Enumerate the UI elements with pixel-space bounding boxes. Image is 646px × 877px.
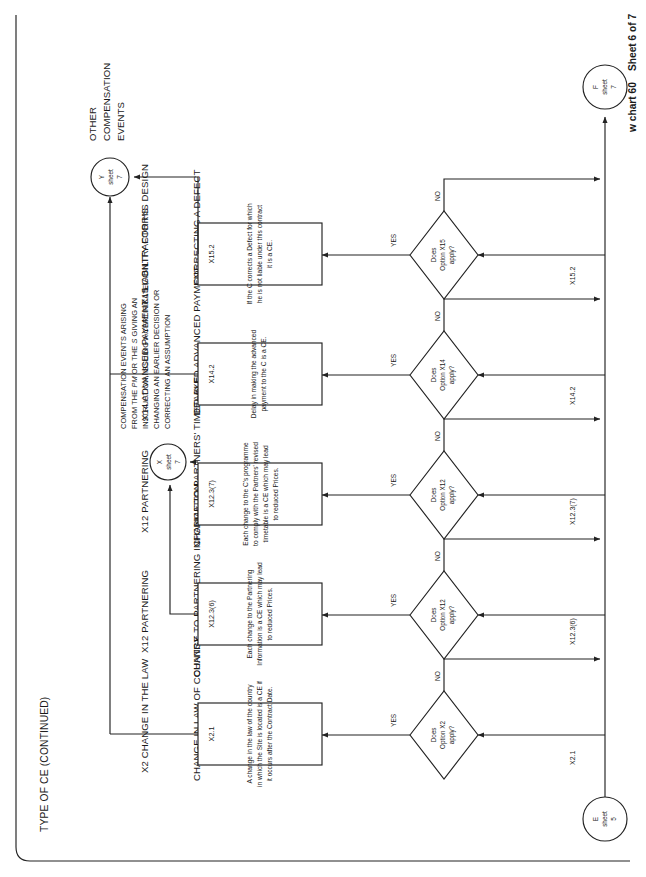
- branch-x12b-option-heading: X12 PARTNERING: [139, 450, 150, 533]
- sheet-border: [16, 15, 630, 861]
- annotation-l2b: PM: [130, 376, 139, 388]
- annotation-l2d: S: [130, 339, 139, 344]
- branch-x2-decision-l2: Option X2: [439, 721, 447, 750]
- branch-x2-yes-label: YES: [390, 713, 397, 727]
- entry-connector: E sheet 5: [583, 797, 627, 841]
- branch-x12b-box-line-4: to reduced Prices.: [272, 467, 279, 520]
- annotation-line-1: COMPENSATION EVENTS ARISING: [119, 303, 128, 429]
- branch-x2-box-line-1: A change in the law of the country: [246, 684, 254, 784]
- branch-x14-yes-label: YES: [390, 353, 397, 367]
- branch-x12b-box-line-3: timetable is a CE which may lead: [262, 445, 270, 542]
- branch-x12b-box-line-2: to comply with the Partners' revised: [252, 442, 260, 546]
- branch-x12b-decision-l3: apply?: [448, 485, 456, 504]
- branch-x12a-box-line-2: Information is a CE which may lead: [256, 562, 264, 666]
- branch-x12a-decision-l1: Does: [430, 608, 437, 623]
- branch-x14-decision-l3: apply?: [448, 365, 456, 384]
- branch-x14: X14 ADVANCED PAYMENT X14.2 Does Option X…: [110, 266, 605, 421]
- x-connector-letter: X: [156, 459, 163, 464]
- branch-x12a-no-label: NO: [434, 551, 441, 561]
- y-connector-sheet-no: 7: [116, 175, 123, 179]
- branch-x2-box-title: X2.1: [207, 727, 216, 742]
- branch-x15: X15 CONTRACTOR'S LIABILITY FOR HIS DESIG…: [134, 164, 605, 305]
- branch-x15-decision-l2: Option X15: [439, 239, 447, 271]
- y-connector: Y sheet 7: [91, 158, 129, 196]
- x-connector: X sheet 7: [150, 444, 186, 480]
- exit-connector: F sheet 7: [583, 65, 627, 109]
- y-label-line-2: COMPENSATION: [101, 63, 112, 141]
- branch-x12b-box-line-1: Each change to the C's programme: [242, 442, 250, 546]
- x-connector-sheet-word: sheet: [165, 454, 172, 470]
- annotation-line-2: FROM THE PM OR THE S GIVING AN: [130, 298, 139, 429]
- branch-x15-box-title: X15.2: [207, 245, 216, 264]
- flowchart-svg: E sheet 5 F sheet 7 TYPE OF CE (CONTINUE…: [0, 0, 646, 877]
- branch-x15-option-heading-2: LIABILITY FOR HIS DESIGN: [139, 164, 150, 291]
- y-connector-sheet-word: sheet: [107, 169, 114, 185]
- y-label-line-3: EVENTS: [115, 102, 126, 141]
- branch-x15-decision-l3: apply?: [448, 245, 456, 264]
- branch-x2-no-label: NO: [434, 671, 441, 681]
- exit-connector-sheet-word: sheet: [601, 79, 608, 95]
- annotation-l2c: OR THE: [130, 344, 139, 377]
- branch-x14-decision-l1: Does: [430, 368, 437, 383]
- branch-x12b-box: [198, 463, 322, 525]
- x-connector-sheet-no: 7: [174, 460, 181, 464]
- annotation-l2a: FROM THE: [130, 388, 139, 429]
- entry-connector-letter: E: [592, 817, 599, 821]
- branch-x12a-box-line-1: Each change to the Partnering: [246, 569, 254, 658]
- branch-x2-decision-l1: Does: [430, 728, 437, 743]
- branch-x14-no-label: NO: [434, 311, 441, 321]
- entry-connector-sheet-word: sheet: [601, 811, 608, 827]
- branch-x12a-decision-l2: Option X12: [439, 599, 447, 631]
- sheet-caption: w chart 60 Sheet 6 of 7: [627, 13, 638, 133]
- branch-x15-decision-l1: Does: [430, 248, 437, 263]
- annotation-line-4: CHANGING AN EARLIER DECISION OR: [152, 290, 161, 429]
- branch-x2-tag: X2.1: [569, 750, 576, 765]
- caption-left: w chart 60: [627, 82, 638, 133]
- branch-x2-box-line-2: in which the Site is located is a CE if: [256, 681, 263, 787]
- caption-right: Sheet 6 of 7: [627, 13, 638, 71]
- branch-x12b-no-label: NO: [434, 431, 441, 441]
- branch-x2-option-heading: X2 CHANGE IN THE LAW: [139, 658, 150, 773]
- branch-x14-box-title: X14.2: [207, 365, 216, 384]
- branch-x12b-no-line: [444, 419, 600, 451]
- branch-x12a-tag: X12.3(6): [569, 618, 577, 645]
- y-connector-label: OTHER COMPENSATION EVENTS: [87, 63, 126, 141]
- branch-x15-no-line: [444, 179, 600, 211]
- branch-x12b-tag: X12.3(7): [569, 498, 577, 525]
- branch-x2-decision-l3: apply?: [448, 725, 456, 744]
- page-title: TYPE OF CE (CONTINUED): [39, 697, 50, 832]
- branch-x14-option-heading: X14 ADVANCED PAYMENT: [139, 300, 150, 421]
- branch-x12a-option-heading: X12 PARTNERING: [139, 570, 150, 653]
- branch-x14-no-line: [444, 299, 600, 331]
- branch-x14-tag: X14.2: [569, 387, 576, 405]
- branch-x12a-decision-l3: apply?: [448, 605, 456, 624]
- y-label-line-1: OTHER: [87, 107, 98, 141]
- rotated-canvas: E sheet 5 F sheet 7 TYPE OF CE (CONTINUE…: [0, 0, 646, 877]
- branch-x2-box-line-3: it occurs after the Contract Date.: [266, 686, 273, 781]
- branch-x14-box-line-2: payment to the C is a CE.: [260, 336, 268, 411]
- y-connector-letter: Y: [98, 174, 105, 179]
- branch-x12b-decision-l1: Does: [430, 488, 437, 503]
- entry-connector-sheet-no: 5: [610, 817, 617, 821]
- branch-x15-box-line-3: it is a CE.: [266, 240, 273, 268]
- exit-connector-letter: F: [592, 85, 599, 89]
- branch-x14-box-line-1: Delay in making the advanced: [250, 330, 258, 419]
- branch-x15-box-line-1: If the C corrects a Defect for which: [246, 203, 253, 304]
- branch-x15-yes-label: YES: [390, 233, 397, 247]
- branch-x2-no-line: [444, 659, 600, 691]
- branch-x15-tag: X15.2: [569, 267, 576, 285]
- flowchart-sheet: E sheet 5 F sheet 7 TYPE OF CE (CONTINUE…: [0, 0, 646, 877]
- branch-x12b-yes-label: YES: [390, 473, 397, 487]
- branch-x14-decision-l2: Option X14: [439, 359, 447, 391]
- branch-x12b-decision-l2: Option X12: [439, 479, 447, 511]
- branch-x15-no-label: NO: [434, 191, 441, 201]
- branch-x12a-yes-label: YES: [390, 593, 397, 607]
- branch-x15-box-line-2: he is not liable under this contract: [256, 205, 263, 303]
- branch-x12b-box-title: X12.3(7): [207, 480, 216, 508]
- branch-x12a-box-line-3: to reduced Prices.: [266, 587, 273, 640]
- annotation-l2e: GIVING AN: [130, 298, 139, 339]
- exit-connector-sheet-no: 7: [610, 85, 617, 89]
- annotation-line-5: CORRECTING AN ASSUMPTION: [163, 314, 172, 429]
- branch-x12a-no-line: [444, 539, 600, 571]
- branch-x2: X2 CHANGE IN THE LAW X2.1 Does Option X2…: [110, 636, 605, 787]
